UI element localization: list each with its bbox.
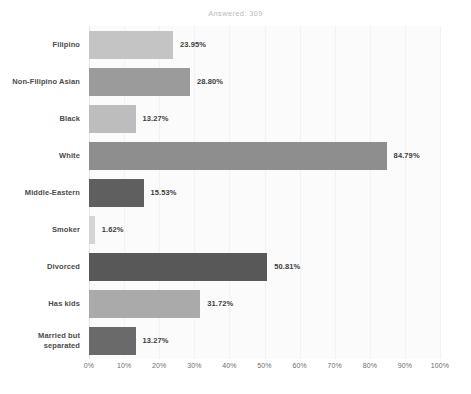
- bar-container: 84.79%: [89, 142, 471, 170]
- bar-category-label: Middle-Eastern: [0, 179, 80, 207]
- bar-value-label: 28.80%: [197, 77, 223, 86]
- bar-row: Smoker1.62%: [0, 216, 471, 244]
- bar[interactable]: [89, 105, 136, 133]
- bar-category-label: Divorced: [0, 253, 80, 281]
- chart-title: Answered: 309: [0, 9, 471, 18]
- bar[interactable]: [89, 31, 173, 59]
- bar-chart: Answered: 309 Filipino23.95%Non-Filipino…: [0, 0, 471, 394]
- bar-value-label: 1.62%: [102, 225, 124, 234]
- x-tick-label: 20%: [152, 362, 166, 369]
- bar[interactable]: [89, 142, 387, 170]
- x-tick-label: 100%: [431, 362, 449, 369]
- bar[interactable]: [89, 327, 136, 355]
- bar-category-label: Non-Filipino Asian: [0, 68, 80, 96]
- bar-container: 15.53%: [89, 179, 471, 207]
- bar-row: Middle-Eastern15.53%: [0, 179, 471, 207]
- x-tick-label: 40%: [222, 362, 236, 369]
- bar-container: 28.80%: [89, 68, 471, 96]
- bar-value-label: 23.95%: [180, 40, 206, 49]
- bar-row: White84.79%: [0, 142, 471, 170]
- x-tick-label: 30%: [187, 362, 201, 369]
- bar-category-label: Smoker: [0, 216, 80, 244]
- x-tick-label: 90%: [398, 362, 412, 369]
- bar-container: 1.62%: [89, 216, 471, 244]
- bar-container: 13.27%: [89, 327, 471, 355]
- bar-container: 13.27%: [89, 105, 471, 133]
- bar-row: Married but separated13.27%: [0, 327, 471, 355]
- bar[interactable]: [89, 290, 200, 318]
- bar-value-label: 84.79%: [394, 151, 420, 160]
- bar-value-label: 15.53%: [151, 188, 177, 197]
- x-tick-label: 60%: [292, 362, 306, 369]
- bar-row: Has kids31.72%: [0, 290, 471, 318]
- bar[interactable]: [89, 216, 95, 244]
- bar-row: Filipino23.95%: [0, 31, 471, 59]
- bar-value-label: 50.81%: [274, 262, 300, 271]
- bar-container: 23.95%: [89, 31, 471, 59]
- bar-category-label: Filipino: [0, 31, 80, 59]
- x-tick-label: 50%: [257, 362, 271, 369]
- bar[interactable]: [89, 179, 144, 207]
- x-tick-label: 80%: [363, 362, 377, 369]
- bar-row: Black13.27%: [0, 105, 471, 133]
- bar-value-label: 13.27%: [143, 114, 169, 123]
- bar-category-label: Black: [0, 105, 80, 133]
- bar-category-label: Has kids: [0, 290, 80, 318]
- bar-rows: Filipino23.95%Non-Filipino Asian28.80%Bl…: [0, 26, 471, 359]
- x-axis: 0%10%20%30%40%50%60%70%80%90%100%: [89, 362, 440, 376]
- bar-row: Divorced50.81%: [0, 253, 471, 281]
- bar-container: 50.81%: [89, 253, 471, 281]
- x-tick-label: 0%: [84, 362, 94, 369]
- bar-category-label: Married but separated: [0, 327, 80, 355]
- bar-container: 31.72%: [89, 290, 471, 318]
- bar-value-label: 31.72%: [207, 299, 233, 308]
- bar[interactable]: [89, 253, 267, 281]
- bar-value-label: 13.27%: [143, 336, 169, 345]
- x-tick-label: 70%: [328, 362, 342, 369]
- bar[interactable]: [89, 68, 190, 96]
- bar-category-label: White: [0, 142, 80, 170]
- bar-row: Non-Filipino Asian28.80%: [0, 68, 471, 96]
- x-tick-label: 10%: [117, 362, 131, 369]
